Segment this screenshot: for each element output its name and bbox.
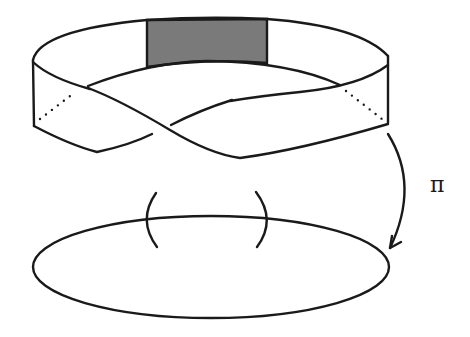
interval-mark-right bbox=[256, 192, 267, 247]
shaded-patch bbox=[147, 19, 267, 67]
base-circle-group bbox=[33, 192, 389, 318]
projection-arrow-curve bbox=[388, 134, 405, 248]
band-left-edge bbox=[33, 60, 34, 126]
mobius-band bbox=[33, 18, 388, 158]
band-lower-left bbox=[34, 126, 152, 152]
identification-dots-right bbox=[346, 91, 382, 119]
projection-label: π bbox=[430, 172, 444, 197]
band-twist-upper bbox=[171, 100, 232, 125]
band-inner-rim-right bbox=[230, 65, 388, 101]
band-inner-rim-left bbox=[33, 62, 90, 89]
identification-dots-left bbox=[40, 93, 74, 119]
mobius-bundle-diagram: π bbox=[0, 0, 470, 337]
projection-arrow: π bbox=[388, 134, 444, 248]
base-circle bbox=[33, 216, 389, 318]
band-back-rim bbox=[88, 61, 340, 86]
